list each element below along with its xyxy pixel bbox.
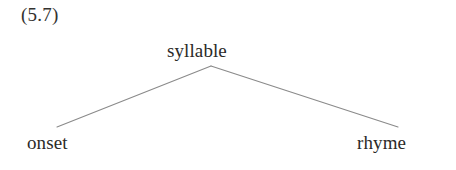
tree-edge-root-to-onset	[57, 66, 211, 127]
tree-node-leaf-onset: onset	[27, 132, 68, 154]
tree-node-root-syllable: syllable	[167, 40, 227, 62]
tree-node-leaf-rhyme: rhyme	[357, 132, 406, 154]
tree-edge-root-to-rhyme	[211, 66, 398, 127]
figure-container: (5.7) syllable onset rhyme	[0, 0, 456, 170]
